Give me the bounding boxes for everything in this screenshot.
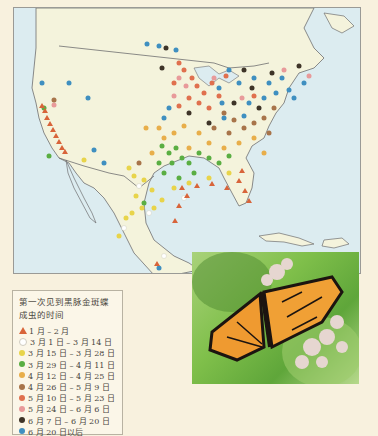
legend-item-jan-feb: 1 月 – 2 月 [19, 325, 116, 336]
legend-label: 3 月 29 日 – 4 月 11 日 [28, 359, 115, 370]
legend-label: 6 月 7 日 – 6 月 20 日 [28, 415, 110, 426]
legend-item-after-jun20: 6 月 20 日以后 [19, 426, 116, 436]
legend-item-may10-may23: 5 月 10 日 – 5 月 23 日 [19, 392, 116, 403]
legend-label: 3 月 1 日 – 3 月 14 日 [30, 336, 112, 347]
triangle-icon [19, 327, 27, 334]
white-dot-icon [19, 338, 27, 346]
legend-label: 5 月 10 日 – 5 月 23 日 [28, 392, 115, 403]
legend-label: 5 月 24 日 – 6 月 6 日 [28, 403, 110, 414]
legend-item-jun7-jun20: 6 月 7 日 – 6 月 20 日 [19, 415, 116, 426]
legend-item-may24-jun6: 5 月 24 日 – 6 月 6 日 [19, 403, 116, 414]
map-legend: 第一次见到黑脉金斑蝶成虫的时间 1 月 – 2 月 3 月 1 日 – 3 月 … [12, 290, 123, 435]
map-graphic [14, 8, 361, 274]
pink-dot-icon [19, 406, 25, 412]
orange-red-dot-icon [19, 395, 25, 401]
light-orange-dot-icon [19, 372, 25, 378]
legend-item-mar15-mar28: 3 月 15 日 – 3 月 28 日 [19, 347, 116, 358]
legend-label: 1 月 – 2 月 [29, 325, 69, 336]
legend-item-mar29-apr11: 3 月 29 日 – 4 月 11 日 [19, 359, 116, 370]
hispaniola [322, 238, 349, 248]
brown-dot-icon [19, 384, 25, 390]
green-dot-icon [19, 361, 25, 367]
legend-label: 4 月 12 日 – 4 月 25 日 [28, 370, 115, 381]
legend-item-mar1-mar14: 3 月 1 日 – 3 月 14 日 [19, 336, 116, 347]
yellow-dot-icon [19, 350, 25, 356]
legend-label: 4 月 26 日 – 5 月 9 日 [28, 381, 110, 392]
blue-dot-icon [19, 428, 25, 434]
legend-label: 3 月 15 日 – 3 月 28 日 [28, 347, 115, 358]
monarch-butterfly-photo [192, 252, 359, 384]
dark-dot-icon [19, 417, 25, 423]
legend-title: 第一次见到黑脉金斑蝶成虫的时间 [19, 296, 116, 322]
butterfly-illustration [192, 252, 359, 384]
newfoundland [324, 13, 354, 33]
cuba [259, 233, 314, 246]
legend-label: 6 月 20 日以后 [28, 426, 83, 436]
legend-item-apr26-may9: 4 月 26 日 – 5 月 9 日 [19, 381, 116, 392]
legend-item-apr12-apr25: 4 月 12 日 – 4 月 25 日 [19, 370, 116, 381]
sightings-map [13, 7, 361, 274]
